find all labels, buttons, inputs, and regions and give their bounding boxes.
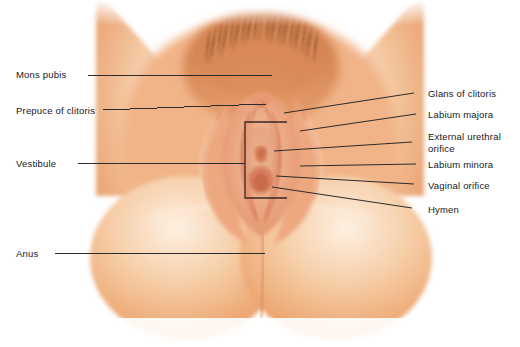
- glans-of-clitoris: [256, 100, 265, 107]
- anatomical-illustration: [0, 0, 520, 347]
- label-glans-of-clitoris: Glans of clitoris: [428, 88, 496, 100]
- vestibule-region: [241, 126, 281, 194]
- label-labium-minora: Labium minora: [428, 159, 493, 171]
- label-anus: Anus: [16, 248, 38, 260]
- label-external-urethral-orifice: External urethral orifice: [428, 131, 514, 154]
- label-hymen: Hymen: [428, 204, 459, 216]
- label-labium-majora: Labium majora: [428, 109, 493, 121]
- anatomy-figure: Mons pubis Prepuce of clitoris Vestibule…: [0, 0, 520, 347]
- label-prepuce-of-clitoris: Prepuce of clitoris: [16, 105, 95, 117]
- label-mons-pubis: Mons pubis: [16, 69, 66, 81]
- label-vestibule: Vestibule: [16, 158, 56, 170]
- label-vaginal-orifice: Vaginal orifice: [428, 180, 490, 192]
